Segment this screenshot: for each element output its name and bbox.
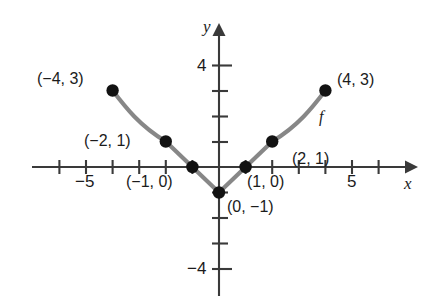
y-tick-label-neg4: −4 <box>187 260 206 277</box>
data-point <box>213 186 225 198</box>
x-axis-label: x <box>404 175 412 192</box>
data-point <box>106 84 118 96</box>
x-tick-label-5: 5 <box>347 173 356 190</box>
data-point <box>266 135 278 147</box>
y-axis-arrowhead <box>213 23 226 36</box>
y-axis-label: y <box>203 18 211 35</box>
data-point <box>239 161 251 173</box>
point-label-2-1: (2, 1) <box>292 151 329 167</box>
point-label-minus2-1: (−2, 1) <box>84 133 131 149</box>
point-label-4-3: (4, 3) <box>337 72 374 88</box>
plot-area <box>0 0 439 308</box>
x-axis-arrowhead <box>405 161 418 174</box>
point-label-0-minus1: (0, −1) <box>227 199 274 215</box>
point-label-minus4-3: (−4, 3) <box>37 71 84 87</box>
curve-label-f: f <box>319 109 323 125</box>
data-point <box>186 161 198 173</box>
chart-figure: y x −5 5 4 −4 (−4, 3) (4, 3) (−2, 1) (2,… <box>0 0 439 308</box>
point-label-minus1-0: (−1, 0) <box>126 174 173 190</box>
point-label-1-0: (1, 0) <box>247 174 284 190</box>
y-tick-label-4: 4 <box>197 57 206 74</box>
x-tick-label-neg5: −5 <box>75 173 94 190</box>
data-point <box>319 84 331 96</box>
data-point <box>160 135 172 147</box>
